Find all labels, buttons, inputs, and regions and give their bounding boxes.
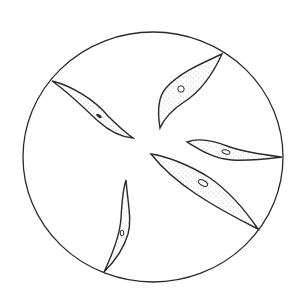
cell-right (187, 140, 282, 161)
cell-lower-right (151, 154, 258, 229)
illustration-canvas (0, 0, 305, 298)
cell-upper-right (158, 54, 222, 128)
nucleus (120, 230, 124, 236)
cell-lower-left (104, 180, 130, 272)
microscope-field-figure: Microscope field of view showing five sp… (0, 0, 305, 298)
nucleus (178, 86, 184, 92)
cell-upper-left (52, 81, 133, 138)
